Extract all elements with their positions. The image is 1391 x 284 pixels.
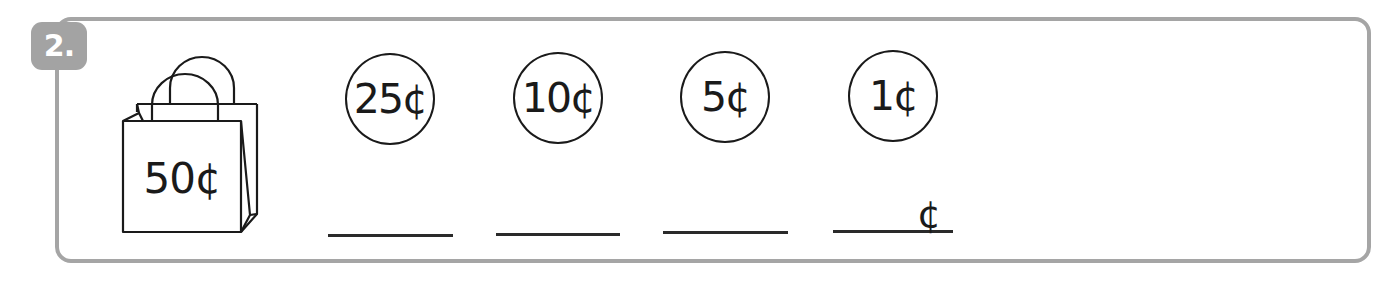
answer-blank-dimes[interactable] (496, 233, 620, 236)
coin-penny: 1¢ (848, 50, 938, 142)
cent-sign-label: ¢ (917, 196, 941, 234)
coin-quarter: 25¢ (345, 53, 435, 145)
answer-blank-nickels[interactable] (663, 231, 788, 234)
problem-number-badge: 2. (31, 22, 87, 70)
coin-dime: 10¢ (513, 52, 603, 144)
coin-label: 5¢ (701, 77, 749, 118)
coin-label: 25¢ (354, 79, 426, 120)
coin-label: 10¢ (522, 78, 594, 119)
shopping-bag-icon (110, 50, 270, 240)
coin-label: 1¢ (869, 76, 917, 117)
coin-nickel: 5¢ (680, 51, 770, 143)
bag-price-label: 50¢ (124, 155, 240, 203)
answer-blank-quarters[interactable] (328, 234, 453, 237)
